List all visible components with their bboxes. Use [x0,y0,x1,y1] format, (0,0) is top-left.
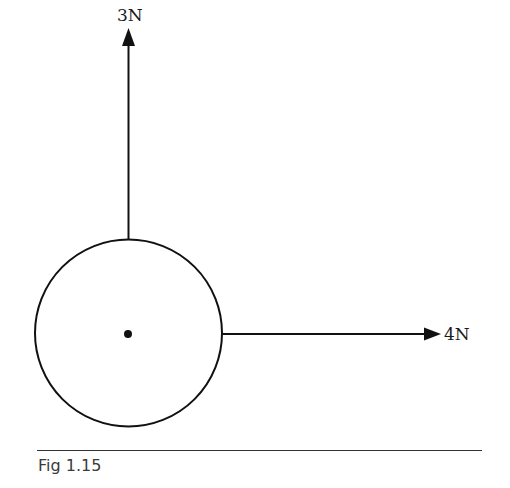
diagram-canvas: 3N 4N [0,0,510,488]
force-arrow-right [222,328,441,341]
center-point [124,330,132,338]
arrowhead-up-icon [122,28,135,46]
caption-divider [37,450,482,451]
force-diagram: 3N 4N Fig 1.15 [0,0,510,488]
force-arrow-up [122,28,135,240]
arrowhead-right-icon [424,328,441,341]
force-label-up: 3N [117,5,143,25]
figure-caption: Fig 1.15 [38,456,101,475]
force-label-right: 4N [444,324,470,344]
